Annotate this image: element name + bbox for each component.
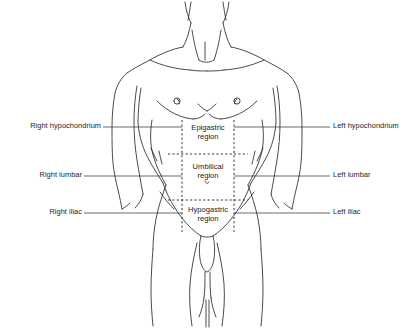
label-left-hypochondrium: Left hypochondrium <box>333 122 399 130</box>
label-right-hypochondrium: Right hypochondrium <box>2 122 101 130</box>
umbilical-line-1: Umbilical <box>178 162 238 171</box>
label-umbilical-region: Umbilical region <box>178 162 238 181</box>
abdominal-regions-figure: Right hypochondrium Right lumbar Right i… <box>0 0 417 329</box>
epigastric-line-2: region <box>178 132 238 141</box>
label-right-lumbar: Right lumbar <box>2 171 82 179</box>
hypogastric-line-1: Hypogastric <box>176 205 240 214</box>
label-epigastric-region: Epigastric region <box>178 123 238 142</box>
umbilical-line-2: region <box>178 171 238 180</box>
label-left-iliac: Left iliac <box>333 208 361 216</box>
label-left-lumbar: Left lumbar <box>333 171 371 179</box>
label-hypogastric-region: Hypogastric region <box>176 205 240 224</box>
label-right-iliac: Right iliac <box>2 208 82 216</box>
epigastric-line-1: Epigastric <box>178 123 238 132</box>
hypogastric-line-2: region <box>176 214 240 223</box>
